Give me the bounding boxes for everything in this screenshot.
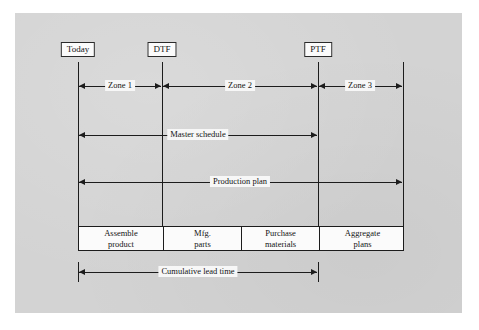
zone-1-arrow-right: [155, 83, 161, 89]
cumulative-lead-time-arrow-right: [311, 269, 317, 275]
planning-horizon-diagram: Today DTF PTF Zone 1 Zone 2 Zone 3 Maste…: [0, 0, 479, 330]
timeline-rule-end: [403, 62, 404, 250]
cumulative-lead-time-tick-end: [318, 262, 319, 282]
timeline-rule-today: [78, 62, 79, 250]
activity-label-line2: plans: [354, 239, 372, 250]
master-schedule-label: Master schedule: [167, 129, 228, 140]
production-plan-arrow-right: [396, 179, 402, 185]
zone-3-arrow-left: [319, 83, 325, 89]
production-plan-label: Production plan: [210, 176, 270, 187]
zone-1-arrow-left: [79, 83, 85, 89]
node-label-today: Today: [61, 42, 95, 57]
activity-cell-purchase-materials: Purchase materials: [242, 227, 319, 250]
activity-label-line1: Aggregate: [345, 228, 380, 239]
zone-3-arrow-right: [396, 83, 402, 89]
activity-label-line2: parts: [194, 239, 211, 250]
timeline-rule-ptf: [318, 62, 319, 250]
zone-2-arrow-right: [311, 83, 317, 89]
activity-cell-assemble-product: Assemble product: [79, 227, 163, 250]
node-label-dtf: DTF: [147, 42, 176, 57]
figure-root: Today DTF PTF Zone 1 Zone 2 Zone 3 Maste…: [0, 0, 479, 330]
timeline-rule-dtf: [162, 62, 163, 250]
activity-label-line1: Assemble: [104, 228, 138, 239]
node-label-ptf: PTF: [304, 42, 332, 57]
activity-table: Assemble product Mfg. parts Purchase mat…: [78, 226, 404, 251]
zone-3-label: Zone 3: [345, 80, 375, 91]
production-plan-arrow-left: [79, 179, 85, 185]
zone-2-label: Zone 2: [225, 80, 255, 91]
activity-cell-aggregate-plans: Aggregate plans: [320, 227, 405, 250]
zone-1-label: Zone 1: [105, 80, 135, 91]
activity-label-line2: product: [108, 239, 134, 250]
activity-label-line2: materials: [265, 239, 296, 250]
cumulative-lead-time-label: Cumulative lead time: [158, 266, 237, 277]
activity-label-line1: Purchase: [265, 228, 296, 239]
activity-label-line1: Mfg.: [194, 228, 211, 239]
zone-2-arrow-left: [163, 83, 169, 89]
activity-cell-mfg-parts: Mfg. parts: [164, 227, 241, 250]
master-schedule-arrow-right: [311, 132, 317, 138]
cumulative-lead-time-arrow-left: [79, 269, 85, 275]
master-schedule-arrow-left: [79, 132, 85, 138]
